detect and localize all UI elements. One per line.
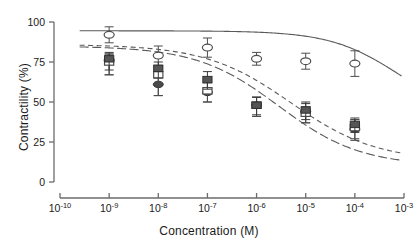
- y-tick-label: 75: [33, 56, 45, 68]
- x-axis: 10-1010-910-810-710-610-510-410-3: [49, 193, 413, 214]
- series-open-circle: [104, 27, 360, 77]
- marker-filled-square: [350, 121, 359, 127]
- y-tick-label: 25: [33, 136, 45, 148]
- curve-solid-upper: [80, 31, 402, 76]
- x-tick-label: 10-3: [395, 201, 413, 214]
- marker-open-circle: [202, 44, 212, 51]
- dose-response-plot: 025507510010-1010-910-810-710-610-510-41…: [0, 0, 418, 247]
- x-tick-label: 10-6: [247, 201, 265, 214]
- y-tick-label: 50: [33, 96, 45, 108]
- y-tick-label: 100: [27, 16, 45, 28]
- marker-open-circle: [350, 60, 360, 67]
- marker-open-circle: [104, 31, 114, 38]
- marker-filled-square: [154, 65, 163, 71]
- marker-open-circle: [252, 55, 262, 62]
- x-tick-label: 10-9: [100, 201, 118, 214]
- marker-filled-square: [301, 107, 310, 113]
- series-filled-circle: [104, 54, 360, 139]
- x-tick-label: 10-5: [297, 201, 315, 214]
- marker-open-circle: [153, 52, 163, 59]
- series-open-square: [105, 54, 360, 140]
- x-tick-label: 10-7: [198, 201, 216, 214]
- marker-filled-square: [252, 102, 261, 108]
- x-tick-label: 10-4: [346, 201, 364, 214]
- y-axis: 0255075100: [27, 16, 54, 188]
- marker-filled-square: [105, 56, 114, 62]
- y-tick-label: 0: [39, 176, 45, 188]
- y-axis-title: Contractility (%): [17, 37, 31, 177]
- x-axis-title: Concentration (M): [0, 224, 418, 238]
- series-filled-square: [105, 52, 360, 132]
- chart-figure: 025507510010-1010-910-810-710-610-510-41…: [0, 0, 418, 247]
- x-tick-label: 10-8: [149, 201, 167, 214]
- marker-filled-square: [203, 76, 212, 82]
- x-tick-label: 10-10: [49, 201, 72, 214]
- marker-open-circle: [301, 58, 311, 65]
